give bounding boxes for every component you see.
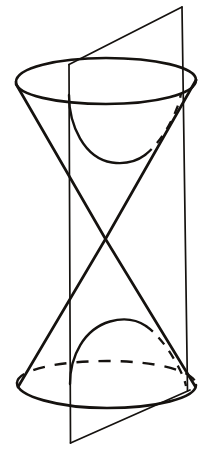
top-circular-rim-group	[16, 58, 196, 104]
bottom-circular-rim-back-arc-hidden	[17, 361, 196, 385]
cutting-plane-right-vertical-edge	[182, 7, 188, 391]
upper-cone-left-generator	[16, 84, 106, 239]
lower-nappe-generators	[18, 239, 195, 387]
cutting-plane-top-edge	[69, 7, 182, 65]
bottom-circular-rim-group	[17, 361, 196, 408]
cutting-plane-bottom-edge	[71, 390, 191, 443]
bottom-circular-rim-front-arc	[17, 383, 196, 408]
figure-canvas	[0, 0, 212, 472]
top-circular-rim-front-arc	[16, 80, 196, 104]
double-cone-hyperbola-diagram	[0, 0, 212, 472]
lower-hyperbola-branch-hidden-tail	[146, 326, 186, 386]
top-circular-rim-back-arc	[16, 58, 196, 82]
lower-hyperbola-branch-main	[70, 320, 146, 384]
cutting-plane-left-vertical-edge	[69, 65, 71, 444]
lower-hyperbola-branch-group	[70, 320, 186, 386]
cutting-plane-outline	[69, 7, 190, 443]
